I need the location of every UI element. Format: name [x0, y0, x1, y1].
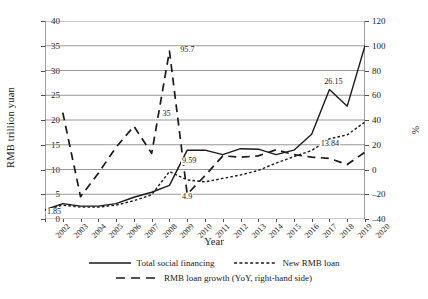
legend-row-1: Total social financing New RMB loan — [0, 258, 428, 268]
y-axis-right-tick-mark — [365, 120, 369, 121]
x-axis-tick-mark — [205, 219, 206, 222]
data-point-label: 1.85 — [46, 208, 62, 216]
x-axis-tick-mark — [45, 219, 46, 222]
y-axis-right-tick-label: 0 — [372, 165, 398, 175]
x-axis-tick-mark — [169, 219, 170, 222]
chart-legend: Total social financing New RMB loan RMB … — [0, 258, 428, 288]
x-axis-tick-mark — [223, 219, 224, 222]
x-axis-tick-mark — [276, 219, 277, 222]
legend-label: RMB loan growth (YoY, right-hand side) — [164, 273, 312, 283]
legend-row-2: RMB loan growth (YoY, right-hand side) — [0, 273, 428, 283]
legend-swatch-dotted — [234, 259, 276, 267]
y-axis-right-tick-label: 80 — [372, 66, 398, 76]
data-point-label: 13.84 — [320, 140, 340, 148]
chart-figure: RMB trillion yuan % Year 051015202530354… — [0, 0, 428, 299]
y-axis-right-tick-label: –20 — [372, 189, 398, 199]
x-axis-tick-mark — [98, 219, 99, 222]
data-point-label: 95.7 — [179, 46, 195, 54]
y-axis-right-tick-mark — [365, 95, 369, 96]
x-axis-tick-mark — [63, 219, 64, 222]
legend-swatch-solid — [89, 259, 131, 267]
y-axis-right-tick-mark — [365, 71, 369, 72]
x-axis-tick-mark — [152, 219, 153, 222]
y-axis-right-tick-label: 40 — [372, 115, 398, 125]
data-point-label: 35 — [161, 110, 171, 118]
series-line — [45, 122, 365, 210]
x-axis-tick-mark — [134, 219, 135, 222]
x-axis-tick-mark — [294, 219, 295, 222]
y-axis-right-tick-mark — [365, 194, 369, 195]
legend-item-total-social-financing: Total social financing — [89, 258, 215, 268]
x-axis-tick-mark — [365, 219, 366, 222]
plot-svg — [45, 21, 365, 219]
y-axis-right-tick-mark — [365, 21, 369, 22]
y-axis-right-title: % — [408, 118, 422, 142]
y-axis-right-tick-mark — [365, 170, 369, 171]
y-axis-right-tick-label: 60 — [372, 90, 398, 100]
data-point-label: 26.15 — [323, 78, 343, 86]
y-axis-left-title: RMB trillion yuan — [2, 42, 18, 212]
y-axis-right-tick-label: 20 — [372, 140, 398, 150]
y-axis-right-tick-label: 100 — [372, 41, 398, 51]
legend-item-new-rmb-loan: New RMB loan — [234, 258, 339, 268]
x-axis-tick-mark — [241, 219, 242, 222]
x-axis-tick-mark — [329, 219, 330, 222]
x-axis-tick-mark — [187, 219, 188, 222]
x-axis-tick-mark — [116, 219, 117, 222]
x-axis-tick-mark — [312, 219, 313, 222]
y-axis-right-tick-mark — [365, 46, 369, 47]
data-point-label: 4.9 — [181, 193, 193, 201]
legend-item-rmb-loan-growth: RMB loan growth (YoY, right-hand side) — [116, 273, 312, 283]
x-axis-tick-mark — [258, 219, 259, 222]
y-axis-right-tick-mark — [365, 145, 369, 146]
series-line — [63, 51, 365, 197]
x-axis-tick-mark — [81, 219, 82, 222]
legend-label: Total social financing — [137, 258, 215, 268]
legend-swatch-dashed — [116, 274, 158, 282]
data-point-label: 9.59 — [181, 157, 197, 165]
y-axis-right-tick-label: 120 — [372, 16, 398, 26]
plot-area: 1.853595.79.594.926.1513.84 — [45, 21, 365, 219]
legend-label: New RMB loan — [282, 258, 339, 268]
x-axis-tick-mark — [347, 219, 348, 222]
